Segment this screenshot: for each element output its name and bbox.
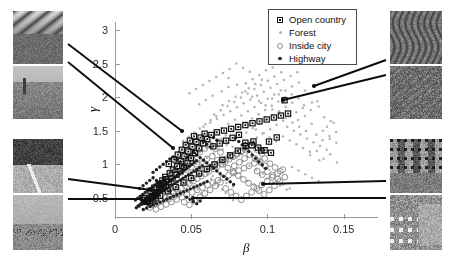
- y-tick: [115, 97, 120, 98]
- y-axis-title: γ: [85, 107, 101, 112]
- forest-marker-icon: [273, 31, 287, 34]
- x-axis-line: [115, 217, 378, 218]
- highway-photo-1: [13, 139, 63, 193]
- x-tick: [191, 214, 192, 219]
- legend-label: Highway: [287, 54, 325, 64]
- x-tick: [115, 214, 116, 219]
- x-axis-title: β: [243, 240, 249, 256]
- x-tick: [344, 214, 345, 219]
- x-tick-label: 0.05: [181, 224, 202, 235]
- y-tick: [115, 131, 120, 132]
- y-tick-label: 2.5: [93, 58, 108, 69]
- y-axis-line: [115, 22, 116, 218]
- legend-label: Inside city: [287, 41, 331, 51]
- highway-marker-icon: [273, 57, 287, 61]
- legend-item-open-country[interactable]: Open country: [273, 13, 352, 26]
- legend: Open country Forest Inside city Highway: [268, 9, 357, 65]
- inside-city-photo-2: [390, 195, 442, 250]
- open-country-photo-1: [13, 11, 63, 64]
- inside-city-marker-icon: [273, 43, 287, 49]
- open-country-marker-icon: [273, 17, 287, 23]
- y-tick: [115, 198, 120, 199]
- figure-root: 00.050.10.150.511.522.53 β γ Open countr…: [0, 0, 454, 266]
- inside-city-photo-1: [390, 139, 442, 193]
- legend-item-highway[interactable]: Highway: [273, 52, 352, 65]
- x-tick-label: 0.1: [260, 224, 275, 235]
- y-tick-label: 3: [102, 25, 108, 36]
- open-country-photo-2: [13, 66, 63, 119]
- y-tick-label: 1.5: [93, 125, 108, 136]
- legend-label: Forest: [287, 28, 316, 38]
- y-tick-label: 1: [102, 159, 108, 170]
- y-tick: [115, 164, 120, 165]
- legend-label: Open country: [287, 15, 346, 25]
- legend-item-inside-city[interactable]: Inside city: [273, 39, 352, 52]
- x-tick-label: 0.15: [333, 224, 354, 235]
- y-tick: [115, 64, 120, 65]
- y-tick: [115, 30, 120, 31]
- x-tick: [267, 214, 268, 219]
- forest-photo-1: [390, 11, 442, 64]
- y-tick-label: 0.5: [93, 192, 108, 203]
- y-tick-label: 2: [102, 92, 108, 103]
- legend-item-forest[interactable]: Forest: [273, 26, 352, 39]
- forest-photo-2: [390, 66, 442, 119]
- x-tick-label: 0: [112, 224, 118, 235]
- highway-photo-2: [13, 195, 63, 250]
